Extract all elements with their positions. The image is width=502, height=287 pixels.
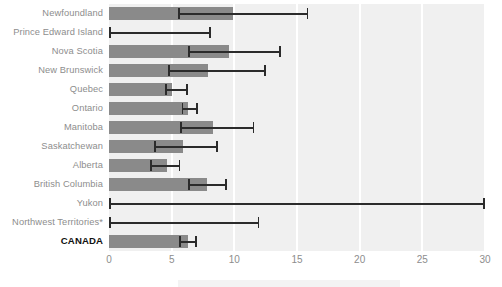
x-axis-tick-label: 25	[417, 253, 428, 267]
bar-row	[109, 118, 485, 137]
error-bar-cap-high	[258, 217, 260, 228]
bar-row	[109, 42, 485, 61]
error-bar-cap-low	[150, 160, 152, 171]
category-label: British Columbia	[0, 175, 103, 194]
error-bar-cap-high	[307, 8, 309, 19]
error-bar-line	[178, 13, 308, 15]
error-bar-cap-low	[178, 8, 180, 19]
error-bar-cap-high	[209, 27, 211, 38]
bar-row	[109, 213, 485, 232]
error-bar-cap-high	[483, 198, 485, 209]
category-label: CANADA	[0, 232, 103, 251]
bar-row	[109, 80, 485, 99]
error-bar-cap-high	[279, 46, 281, 57]
category-label: Alberta	[0, 156, 103, 175]
category-label: Ontario	[0, 99, 103, 118]
error-bar-cap-low	[109, 217, 111, 228]
category-label: Newfoundland	[0, 4, 103, 23]
error-bar-cap-low	[188, 46, 190, 57]
error-bar-line	[188, 51, 281, 53]
error-bar-cap-high	[216, 141, 218, 152]
error-bar-cap-high	[179, 160, 181, 171]
error-bar-cap-high	[196, 103, 198, 114]
error-bar-line	[154, 146, 218, 148]
error-bar-line	[188, 184, 227, 186]
x-axis-tick-label: 0	[106, 253, 112, 267]
error-bar-cap-low	[109, 198, 111, 209]
error-bar-cap-high	[195, 236, 197, 247]
bar-row	[109, 156, 485, 175]
bar-chart: NewfoundlandPrince Edward IslandNova Sco…	[0, 0, 502, 287]
x-axis-tick-label: 30	[479, 253, 490, 267]
bar-row	[109, 137, 485, 156]
category-label: New Brunswick	[0, 61, 103, 80]
error-bar-line	[168, 70, 266, 72]
error-bar-cap-low	[179, 236, 181, 247]
category-label: Manitoba	[0, 118, 103, 137]
error-bar-line	[180, 127, 254, 129]
category-label: Nova Scotia	[0, 42, 103, 61]
bar-row	[109, 4, 485, 23]
x-axis-tick-label: 20	[354, 253, 365, 267]
error-bar-line	[109, 222, 259, 224]
category-label: Northwest Territories*	[0, 213, 103, 232]
bar-row	[109, 23, 485, 42]
bar-row	[109, 194, 485, 213]
error-bar-cap-low	[182, 103, 184, 114]
bottom-decorative-band	[178, 280, 400, 287]
error-bar-cap-low	[165, 84, 167, 95]
x-axis-tick-label: 15	[291, 253, 302, 267]
error-bar-cap-high	[186, 84, 188, 95]
error-bar-cap-high	[225, 179, 227, 190]
bar	[109, 102, 188, 115]
plot-area	[109, 4, 485, 251]
error-bar-cap-low	[180, 122, 182, 133]
error-bar-line	[179, 241, 197, 243]
error-bar-cap-low	[188, 179, 190, 190]
x-axis-tick-label: 5	[169, 253, 175, 267]
bar-row	[109, 61, 485, 80]
error-bar-line	[165, 89, 188, 91]
bar-row	[109, 232, 485, 251]
category-axis-labels: NewfoundlandPrince Edward IslandNova Sco…	[0, 4, 103, 251]
x-axis-tick-label: 10	[229, 253, 240, 267]
x-axis: 051015202530	[109, 253, 485, 271]
error-bar-cap-low	[109, 27, 111, 38]
category-label: Prince Edward Island	[0, 23, 103, 42]
error-bar-line	[150, 165, 180, 167]
category-label: Quebec	[0, 80, 103, 99]
error-bar-cap-high	[264, 65, 266, 76]
bar	[109, 235, 188, 248]
error-bar-line	[109, 203, 485, 205]
error-bar-cap-low	[168, 65, 170, 76]
category-label: Yukon	[0, 194, 103, 213]
bar-row	[109, 99, 485, 118]
bar-row	[109, 175, 485, 194]
bar	[109, 83, 172, 96]
category-label: Saskatchewan	[0, 137, 103, 156]
error-bar-cap-low	[154, 141, 156, 152]
error-bar-line	[109, 32, 211, 34]
error-bar-cap-high	[253, 122, 255, 133]
